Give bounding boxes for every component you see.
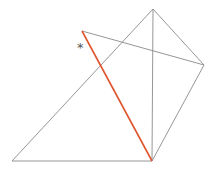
edge	[153, 9, 204, 65]
highlighted-edge	[82, 31, 152, 161]
edge	[82, 31, 204, 65]
edge	[152, 9, 153, 161]
asterisk-marker: *	[77, 41, 84, 54]
edge	[152, 65, 204, 161]
geometry-diagram	[0, 0, 215, 171]
